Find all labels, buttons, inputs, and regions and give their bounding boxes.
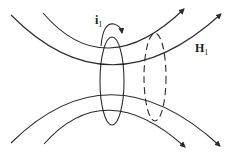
- current-label: i1: [95, 14, 102, 29]
- field-label: H1: [195, 42, 208, 57]
- field-line-bottom-outer: [11, 95, 220, 146]
- field-diagram: [0, 0, 233, 161]
- dashed-loop: [144, 33, 166, 121]
- current-loop: [100, 37, 124, 125]
- current-direction-arrow: [101, 24, 122, 46]
- field-line-top-inner: [43, 9, 184, 48]
- field-line-bottom-inner: [44, 110, 185, 147]
